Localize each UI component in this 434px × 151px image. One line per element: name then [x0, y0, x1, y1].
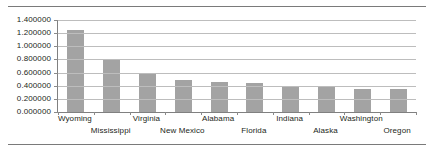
y-axis-tick-label: 0.000000 [17, 108, 51, 116]
y-tickmark [54, 20, 58, 21]
x-tickmark [237, 112, 238, 115]
y-tickmark [54, 33, 58, 34]
x-axis-label-alabama: Alabama [202, 115, 234, 123]
y-axis-tick-label: 0.400000 [17, 82, 51, 90]
bar [175, 80, 192, 112]
y-axis-tick-label: 1.200000 [17, 29, 51, 37]
gridline-1.400000 [58, 20, 416, 21]
x-axis-label-virginia: Virginia [133, 115, 160, 123]
y-tickmark [54, 99, 58, 100]
bar [246, 83, 263, 112]
top-horizontal-rule [8, 6, 426, 7]
y-axis-tick-label: 0.200000 [17, 95, 51, 103]
gridline-0.200000 [58, 99, 416, 100]
x-axis-label-wyoming: Wyoming [58, 115, 92, 123]
plot-area: 0.0000000.2000000.4000000.6000000.800000… [57, 20, 416, 113]
bottom-horizontal-rule [8, 144, 426, 145]
x-tickmark [94, 112, 95, 115]
y-axis-tick-label: 0.600000 [17, 69, 51, 77]
x-axis-label-florida: Florida [241, 127, 266, 135]
y-tickmark [54, 46, 58, 47]
y-axis-tick-label: 1.400000 [17, 16, 51, 24]
gridline-0.400000 [58, 86, 416, 87]
x-axis-label-mississippi: Mississippi [91, 127, 131, 135]
gridline-0.600000 [58, 73, 416, 74]
x-tickmark [273, 112, 274, 115]
x-axis-label-washington: Washington [340, 115, 383, 123]
x-axis-label-indiana: Indiana [276, 115, 303, 123]
x-axis-label-new-mexico: New Mexico [160, 127, 205, 135]
gridline-0.800000 [58, 59, 416, 60]
bar [354, 89, 371, 112]
figure-container: 0.0000000.2000000.4000000.6000000.800000… [0, 0, 434, 151]
y-tickmark [54, 59, 58, 60]
x-tickmark [416, 112, 417, 115]
y-tickmark [54, 86, 58, 87]
bar [139, 73, 156, 112]
bar [390, 89, 407, 112]
y-tickmark [54, 73, 58, 74]
x-tickmark [309, 112, 310, 115]
x-tickmark [165, 112, 166, 115]
gridline-1.200000 [58, 33, 416, 34]
x-axis-label-alaska: Alaska [313, 127, 338, 135]
y-axis-tick-label: 0.800000 [17, 55, 51, 63]
chart-area: 0.0000000.2000000.4000000.6000000.800000… [0, 14, 434, 138]
gridline-1.000000 [58, 46, 416, 47]
x-axis-label-oregon: Oregon [383, 127, 410, 135]
x-tickmark [130, 112, 131, 115]
y-axis-tick-label: 1.000000 [17, 42, 51, 50]
